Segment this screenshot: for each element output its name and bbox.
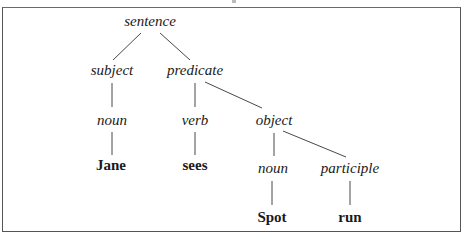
- tree-edges: [0, 0, 467, 242]
- edge-sentence-subject: [113, 33, 141, 60]
- node-predicate: predicate: [167, 63, 223, 78]
- edge-sentence-predicate: [160, 33, 190, 60]
- node-noun-object: noun: [258, 161, 288, 176]
- word-spot: Spot: [257, 210, 286, 225]
- edge-object-participle: [283, 131, 346, 157]
- edge-predicate-object: [205, 82, 262, 108]
- node-sentence: sentence: [124, 14, 176, 29]
- word-run: run: [338, 210, 361, 225]
- node-participle: participle: [321, 161, 379, 176]
- node-subject: subject: [91, 63, 134, 78]
- word-jane: Jane: [96, 158, 126, 173]
- node-noun-subject: noun: [97, 113, 127, 128]
- node-object: object: [256, 113, 293, 128]
- word-sees: sees: [183, 158, 208, 173]
- node-verb: verb: [182, 113, 209, 128]
